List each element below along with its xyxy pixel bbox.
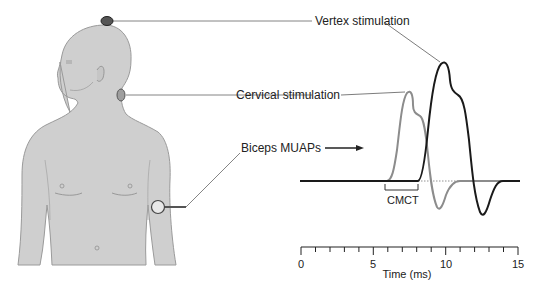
cervical-electrode	[117, 89, 125, 101]
human-figure	[18, 25, 176, 265]
arrow-icon	[356, 145, 364, 151]
biceps-muaps-label: Biceps MUAPs	[241, 141, 321, 155]
body-silhouette	[18, 25, 176, 265]
biceps-electrode	[152, 201, 165, 214]
vertex-trace	[300, 62, 520, 214]
cmct-bracket	[385, 184, 418, 190]
vertex-electrode	[101, 17, 113, 26]
cmct-label: CMCT	[387, 193, 419, 207]
cervical-trace	[300, 92, 520, 209]
cmct-diagram: Vertex stimulation Cervical stimulation …	[0, 0, 545, 287]
tick-label-15: 15	[512, 258, 524, 270]
axis-title: Time (ms)	[382, 268, 431, 280]
cervical-stimulation-label: Cervical stimulation	[236, 88, 340, 102]
tick-label-0: 0	[298, 258, 304, 270]
time-axis	[301, 247, 518, 255]
vertex-stimulation-label: Vertex stimulation	[315, 14, 410, 28]
tick-label-5: 5	[370, 258, 376, 270]
tick-label-10: 10	[440, 258, 452, 270]
